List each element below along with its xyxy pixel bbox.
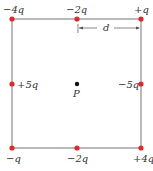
- distance-d-dimension: d: [78, 22, 140, 33]
- charge-dot: [138, 145, 143, 150]
- charge-label: −4q: [3, 4, 24, 15]
- charge-dot: [138, 16, 143, 21]
- charge-dot: [9, 16, 14, 21]
- charge-dot: [138, 81, 143, 86]
- charge-dot: [74, 145, 79, 150]
- distance-d-label: d: [103, 22, 109, 33]
- point-p-dot: [75, 82, 79, 86]
- charge-label: −2q: [66, 4, 87, 15]
- charge-label: +4q: [133, 153, 153, 164]
- charge-dot: [9, 81, 14, 86]
- charge-label: −2q: [67, 153, 88, 164]
- charge-label: −q: [6, 153, 21, 164]
- charge-dot: [9, 145, 14, 150]
- charge-dot: [74, 16, 79, 21]
- charge-label: +5q: [17, 79, 38, 90]
- charge-label: +q: [134, 4, 149, 15]
- charge-square-diagram: −4q−2q+q+5q−5q−q−2q+4q P d: [0, 0, 153, 171]
- point-p-label: P: [72, 88, 80, 99]
- charge-label: −5q: [118, 79, 139, 90]
